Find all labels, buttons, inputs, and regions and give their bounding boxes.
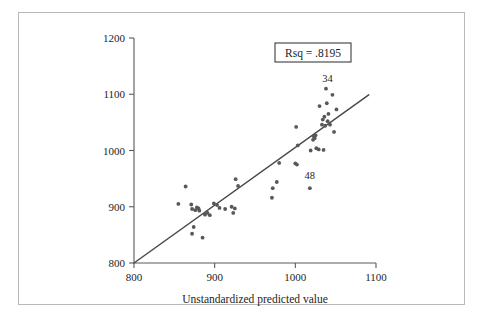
figure-frame: 80090010001100120080090010001100Unstanda…: [18, 12, 465, 305]
data-point: [236, 184, 240, 188]
data-point-label: 34: [322, 73, 333, 84]
data-point: [327, 112, 331, 116]
data-point: [192, 225, 196, 229]
data-point: [328, 123, 332, 127]
x-tick-label: 900: [206, 271, 223, 283]
x-tick-label: 1000: [284, 271, 307, 283]
y-tick-label: 1200: [103, 32, 126, 44]
data-point: [332, 130, 336, 134]
data-point: [320, 123, 324, 127]
x-axis-title: Unstandardized predicted value: [182, 293, 328, 306]
data-point: [231, 211, 235, 215]
data-point: [270, 196, 274, 200]
data-point: [309, 149, 313, 153]
data-point: [335, 108, 339, 112]
data-point-label: 48: [305, 170, 316, 181]
y-tick-label: 1000: [103, 145, 126, 157]
y-tick-label: 800: [109, 257, 126, 269]
data-point: [189, 203, 193, 207]
data-point: [314, 133, 318, 137]
data-point: [212, 201, 216, 205]
y-tick-label: 1100: [103, 88, 125, 100]
data-point: [277, 161, 281, 165]
data-point: [322, 115, 326, 119]
data-point: [326, 119, 330, 123]
data-point: [275, 180, 279, 184]
data-point: [324, 87, 328, 91]
data-point: [295, 163, 299, 167]
data-point: [190, 207, 194, 211]
data-point: [325, 101, 329, 105]
data-point: [208, 213, 212, 217]
data-point: [294, 125, 298, 129]
y-tick-label: 900: [109, 201, 126, 213]
data-point: [296, 144, 300, 148]
data-point: [197, 209, 201, 213]
regression-line: [134, 95, 369, 263]
x-tick-label: 1100: [365, 271, 387, 283]
data-point: [318, 104, 322, 108]
data-point: [184, 185, 188, 189]
data-point: [233, 207, 237, 211]
data-point: [218, 206, 222, 210]
scatter-plot: 80090010001100120080090010001100Unstanda…: [19, 13, 466, 306]
data-point: [234, 177, 238, 181]
data-point: [230, 205, 234, 209]
data-point: [190, 232, 194, 236]
rsq-label: Rsq = .8195: [285, 47, 341, 60]
data-point: [317, 147, 321, 151]
data-point: [323, 124, 327, 128]
data-point: [271, 186, 275, 190]
data-point: [308, 186, 312, 190]
data-point: [201, 236, 205, 240]
x-tick-label: 800: [126, 271, 143, 283]
data-point: [331, 93, 335, 97]
data-point: [322, 148, 326, 152]
data-point: [223, 207, 227, 211]
data-point: [176, 202, 180, 206]
